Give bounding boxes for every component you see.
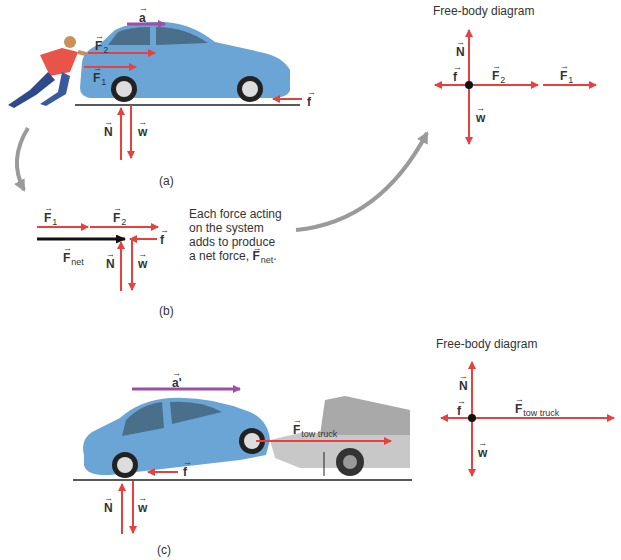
label-f2-a: F2 [95,40,108,55]
label-f1-b: F1 [44,212,57,227]
label-f2-b: F2 [113,212,126,227]
label-friction-a: f [307,96,311,108]
fbd-a-label-f2: F2 [492,70,505,85]
tow-truck-illustration [270,396,410,476]
label-acceleration-a: a [139,12,146,24]
label-normal-b: N [106,258,115,270]
panel-c-scene [73,389,412,534]
label-acceleration-c: a' [172,377,182,389]
caption-c: (c) [157,543,171,557]
fbd-a-label-normal: N [456,46,465,58]
fbd-c-label-ftow: Ftow truck [515,403,559,418]
label-weight-a: w [138,126,147,138]
label-weight-b: w [138,258,147,270]
fbd-c-title: Free-body diagram [436,337,537,351]
label-normal-c: N [104,502,113,514]
net-force-description: Each force acting on the system adds to … [189,207,309,267]
caption-b: (b) [159,304,174,318]
panel-a-scene [8,22,302,160]
label-friction-b: f [160,234,164,246]
car-illustration-a [80,22,290,102]
label-normal-a: N [104,126,113,138]
fbd-a-label-weight: w [476,112,485,124]
flow-arrow-b-to-fbd [296,133,427,230]
people-pushing-illustration [8,36,90,108]
label-fnet-b: Fnet [63,252,84,267]
fbd-a-title: Free-body diagram [433,4,534,18]
caption-a: (a) [159,174,174,188]
fbd-a-label-friction: f [453,71,457,83]
fbd-a-label-f1: F1 [560,70,573,85]
label-weight-c: w [138,502,147,514]
label-f1-a: F1 [93,72,106,87]
label-ftow-c: Ftow truck [293,424,337,439]
car-illustration-c [83,398,270,478]
fbd-c-label-friction: f [457,405,461,417]
flow-arrow-a-to-b [17,128,28,190]
fbd-c-label-normal: N [459,380,468,392]
label-friction-c: f [183,466,187,478]
fbd-c-label-weight: w [478,447,487,459]
